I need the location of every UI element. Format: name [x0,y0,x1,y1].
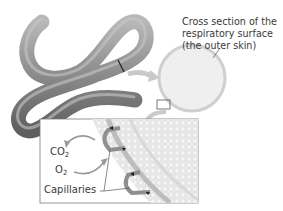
arrow-to-cross-section-icon [128,72,152,76]
capillaries-label: Capillaries [44,184,96,195]
diagram-canvas: Cross section of the respiratory surface… [0,0,283,211]
cross-section-label: Cross section of the respiratory surface… [182,16,282,52]
earthworm-illustration [17,19,146,131]
co2-label: CO2 [50,146,69,161]
o2-label: O2 [55,164,67,179]
